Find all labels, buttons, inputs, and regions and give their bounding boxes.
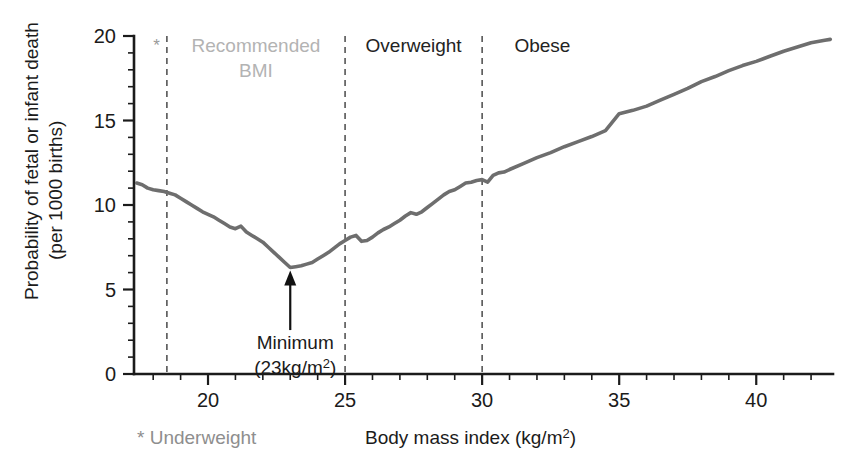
x-axis-title-close-paren: ) — [570, 427, 576, 448]
y-tick-label: 10 — [94, 194, 116, 216]
band-label: Obese — [514, 35, 570, 56]
minimum-label-unit: kg/m — [282, 357, 323, 378]
y-axis-title: Probability of fetal or infant death (pe… — [21, 22, 66, 300]
minimum-label-close-paren: ) — [330, 357, 336, 378]
minimum-label-line1: Minimum — [257, 332, 334, 353]
y-tick-label: 20 — [94, 25, 116, 47]
band-label: Overweight — [366, 35, 463, 56]
minimum-label-exponent: 2 — [323, 356, 330, 371]
x-tick-label: 35 — [608, 389, 630, 411]
x-axis-title-exponent: 2 — [562, 426, 569, 441]
y-tick-label: 0 — [105, 363, 116, 385]
axes: 05101520 2025303540 — [94, 25, 833, 411]
band-label: Recommended — [192, 35, 321, 56]
minimum-label-value: (23 — [254, 357, 281, 378]
bmi-band-labels: RecommendedBMIOverweightObese — [192, 35, 571, 81]
bmi-mortality-chart: 05101520 2025303540 RecommendedBMIOverwe… — [0, 0, 849, 468]
minimum-arrow-head — [284, 271, 296, 286]
minimum-annotation: Minimum (23kg/m2) — [254, 271, 336, 379]
y-axis-ticks — [123, 36, 134, 374]
figure-container: 05101520 2025303540 RecommendedBMIOverwe… — [0, 0, 849, 468]
underweight-star-marker: * — [153, 36, 160, 55]
y-axis-tick-labels: 05101520 — [94, 25, 116, 385]
band-label-line2: BMI — [239, 60, 273, 81]
y-axis-title-line1: Probability of fetal or infant death — [21, 22, 42, 300]
x-axis-tick-labels: 2025303540 — [197, 389, 767, 411]
x-tick-label: 30 — [471, 389, 493, 411]
x-tick-label: 40 — [745, 389, 767, 411]
y-tick-label: 5 — [105, 279, 116, 301]
x-axis-title: Body mass index (kg/m2) — [365, 426, 576, 448]
y-tick-label: 15 — [94, 110, 116, 132]
x-tick-label: 25 — [334, 389, 356, 411]
y-axis-title-line2: (per 1000 births) — [45, 121, 66, 260]
bmi-category-dividers — [167, 36, 482, 374]
x-axis-title-main: Body mass index (kg/m — [365, 427, 562, 448]
underweight-footnote: * Underweight — [137, 427, 257, 448]
x-axis-ticks — [153, 374, 811, 385]
x-tick-label: 20 — [197, 389, 219, 411]
